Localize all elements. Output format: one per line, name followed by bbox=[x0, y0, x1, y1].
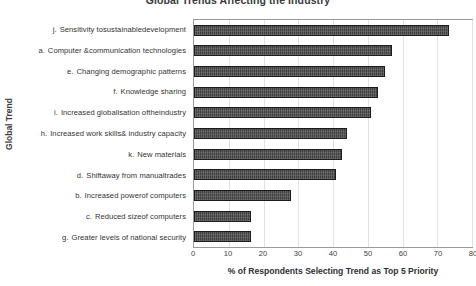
bar-row bbox=[194, 20, 472, 41]
y-axis-title-label: Global Trend bbox=[4, 98, 14, 150]
category-label-text: New materials bbox=[137, 150, 186, 159]
category-label-key: f. bbox=[113, 87, 117, 96]
bar bbox=[194, 149, 342, 160]
category-label-key: e. bbox=[67, 67, 73, 76]
category-label: f.Knowledge sharing bbox=[16, 81, 190, 102]
category-label: d.Shiftaway from manualtrades bbox=[16, 165, 190, 186]
bar bbox=[194, 87, 378, 98]
category-label-text: Reduced sizeof computers bbox=[95, 212, 186, 221]
bar-row bbox=[194, 123, 472, 144]
category-label-key: i. bbox=[54, 108, 58, 117]
y-axis-title: Global Trend bbox=[2, 0, 16, 248]
x-axis-title: % of Respondents Selecting Trend as Top … bbox=[193, 266, 473, 276]
bar bbox=[194, 128, 347, 139]
category-label-key: b. bbox=[75, 191, 81, 200]
bar-row bbox=[194, 82, 472, 103]
category-label: e.Changing demographic patterns bbox=[16, 61, 190, 82]
bar-row bbox=[194, 103, 472, 124]
category-label: a.Computer &communication technologies bbox=[16, 40, 190, 61]
category-label-text: Computer &communication technologies bbox=[48, 46, 186, 55]
bar-row bbox=[194, 164, 472, 185]
category-axis-labels: j.Sensitivity tosustainabledevelopmenta.… bbox=[16, 19, 190, 248]
category-label-key: a. bbox=[38, 46, 44, 55]
category-label-key: j. bbox=[53, 25, 57, 34]
category-label: h.Increased work skills& industry capaci… bbox=[16, 123, 190, 144]
category-label-text: Increased powerof computers bbox=[85, 191, 186, 200]
bar-row bbox=[194, 185, 472, 206]
category-label: b.Increased powerof computers bbox=[16, 186, 190, 207]
bar-row bbox=[194, 226, 472, 247]
x-tick-label: 70 bbox=[434, 249, 442, 258]
category-label: c.Reduced sizeof computers bbox=[16, 206, 190, 227]
category-label: i.Increased globalisation oftheindustry bbox=[16, 102, 190, 123]
gridline bbox=[472, 20, 473, 247]
bar-row bbox=[194, 41, 472, 62]
bar-series bbox=[194, 20, 472, 247]
category-label: g.Greater levels of national security bbox=[16, 227, 190, 248]
x-tick-label: 10 bbox=[224, 249, 232, 258]
bar bbox=[194, 66, 385, 77]
chart-title: Global Trends Affecting the Industry bbox=[0, 0, 476, 6]
category-label-key: d. bbox=[77, 171, 83, 180]
x-tick-label: 60 bbox=[399, 249, 407, 258]
category-label-text: Sensitivity tosustainabledevelopment bbox=[60, 25, 186, 34]
category-label: k.New materials bbox=[16, 144, 190, 165]
category-label-key: c. bbox=[86, 212, 92, 221]
category-label-text: Increased globalisation oftheindustry bbox=[61, 108, 186, 117]
category-label-text: Changing demographic patterns bbox=[76, 67, 186, 76]
category-label-key: k. bbox=[128, 150, 134, 159]
bar bbox=[194, 169, 336, 180]
x-tick-label: 40 bbox=[329, 249, 337, 258]
chart-screenshot: Global Trends Affecting the Industry Glo… bbox=[0, 0, 476, 286]
bar bbox=[194, 190, 291, 201]
bar-row bbox=[194, 144, 472, 165]
category-label-text: Shiftaway from manualtrades bbox=[86, 171, 186, 180]
category-label-text: Increased work skills& industry capacity bbox=[50, 129, 186, 138]
x-tick-label: 0 bbox=[191, 249, 195, 258]
bar bbox=[194, 211, 251, 222]
x-tick-label: 20 bbox=[259, 249, 267, 258]
plot-area bbox=[193, 19, 473, 248]
category-label-text: Knowledge sharing bbox=[121, 87, 186, 96]
bar bbox=[194, 25, 449, 36]
x-tick-label: 80 bbox=[469, 249, 476, 258]
x-tick-label: 30 bbox=[294, 249, 302, 258]
bar-row bbox=[194, 61, 472, 82]
x-axis-tick-labels: 01020304050607080 bbox=[193, 249, 473, 261]
category-label-key: h. bbox=[41, 129, 47, 138]
category-label: j.Sensitivity tosustainabledevelopment bbox=[16, 19, 190, 40]
bar bbox=[194, 231, 251, 242]
bar-row bbox=[194, 206, 472, 227]
category-label-text: Greater levels of national security bbox=[72, 233, 186, 242]
bar bbox=[194, 107, 371, 118]
bar bbox=[194, 45, 392, 56]
category-label-key: g. bbox=[62, 233, 68, 242]
x-tick-label: 50 bbox=[364, 249, 372, 258]
